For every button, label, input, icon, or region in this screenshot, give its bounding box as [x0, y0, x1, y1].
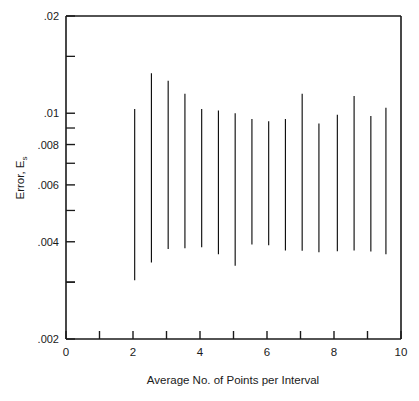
error-range-chart: .002.004.006.008.01.02 0246810 Average N…: [0, 0, 419, 401]
y-tick-label: .002: [38, 333, 59, 345]
y-tick-label: .008: [38, 139, 59, 151]
y-tick-label: .02: [44, 10, 59, 22]
y-tick-label: .01: [44, 107, 59, 119]
x-tick-label: 4: [197, 346, 204, 358]
x-tick-label: 10: [395, 346, 408, 358]
x-tick-label: 6: [264, 346, 270, 358]
x-tick-label: 0: [63, 346, 69, 358]
y-axis-title-main: Error, E: [14, 160, 26, 199]
x-axis-title: Average No. of Points per Interval: [147, 374, 319, 386]
y-tick-label: .004: [38, 236, 59, 248]
y-axis-title-subscript: s: [20, 157, 29, 161]
chart-background: [0, 0, 419, 401]
x-tick-label: 2: [130, 346, 136, 358]
x-tick-label: 8: [331, 346, 337, 358]
chart-figure: .002.004.006.008.01.02 0246810 Average N…: [0, 0, 419, 401]
y-tick-label: .006: [38, 179, 59, 191]
